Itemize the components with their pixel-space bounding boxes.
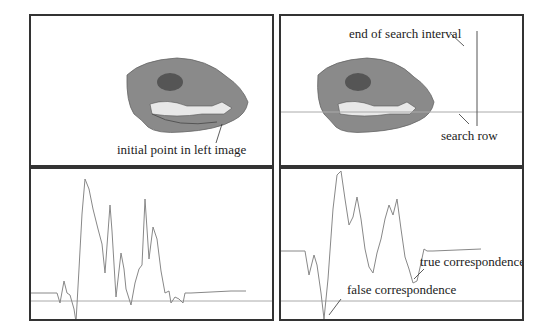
end-of-search-label: end of search interval <box>349 26 461 42</box>
true-correspondence-label: true correspondence <box>420 254 524 270</box>
initial-point-label: initial point in left image <box>117 142 246 158</box>
false-correspondence-label: false correspondence <box>347 282 456 298</box>
panel-right-correlation: true correspondence false correspondence <box>279 167 524 321</box>
panel-left-profile <box>29 167 274 321</box>
panel-right-image: end of search interval search row <box>279 14 524 167</box>
correlation-profile-chart <box>281 169 524 321</box>
intensity-profile-chart <box>31 169 274 321</box>
panel-left-image: initial point in left image <box>29 14 274 167</box>
search-row-label: search row <box>441 128 498 144</box>
